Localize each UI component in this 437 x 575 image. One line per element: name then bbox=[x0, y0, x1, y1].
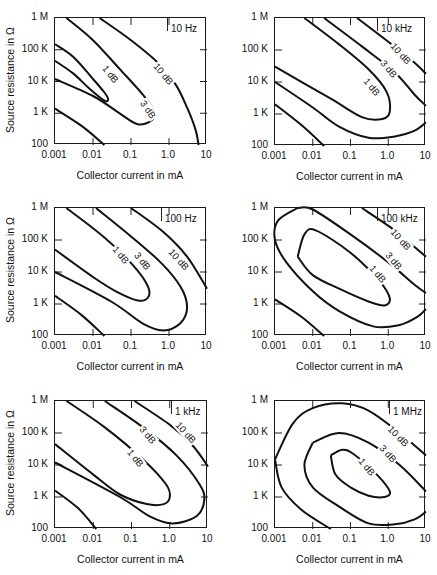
y-tick-label: 10 K bbox=[228, 266, 268, 276]
x-tick-label: 0.001 bbox=[256, 341, 292, 351]
plot-frame: 1 dB3 dB10 dB100 kHz bbox=[274, 207, 425, 335]
plot-curves bbox=[275, 401, 426, 529]
x-axis-label: Collector current in mA bbox=[30, 360, 230, 372]
x-tick-label: 0.001 bbox=[36, 341, 72, 351]
x-tick-label: 10 bbox=[407, 151, 437, 161]
plot-frame: 1 dB3 dB10 dB10 Hz bbox=[54, 17, 206, 144]
x-tick-label: 1.0 bbox=[369, 341, 405, 351]
contour-1-db bbox=[55, 44, 108, 101]
label-divider bbox=[167, 18, 168, 31]
x-tick-label: 1.0 bbox=[150, 150, 186, 160]
plot-curves bbox=[275, 18, 426, 146]
plot-frame: 1 dB3 dB10 dB10 kHz bbox=[274, 17, 425, 145]
x-tick-label: 1.0 bbox=[151, 534, 187, 544]
x-tick-label: 0.01 bbox=[294, 341, 330, 351]
x-tick-label: 0.1 bbox=[112, 341, 148, 351]
x-tick-label: 1.0 bbox=[369, 151, 405, 161]
plot-curves bbox=[275, 208, 426, 336]
x-tick-label: 1.0 bbox=[369, 534, 405, 544]
contour-3-db bbox=[274, 208, 426, 327]
contour-10-db bbox=[55, 109, 104, 145]
x-tick-label: 10 bbox=[407, 534, 437, 544]
plot-curves bbox=[55, 401, 208, 529]
label-divider bbox=[389, 401, 390, 414]
label-divider bbox=[377, 208, 378, 221]
x-axis-label: Collector current in mA bbox=[250, 360, 437, 372]
x-tick-label: 0.001 bbox=[256, 151, 292, 161]
x-tick-label: 1.0 bbox=[150, 341, 186, 351]
plot-frame: 1 dB3 dB10 dB1 kHz bbox=[54, 400, 207, 528]
x-tick-label: 0.1 bbox=[332, 151, 368, 161]
y-tick-label: 100 bbox=[8, 330, 48, 340]
y-axis-label: Source resistance in Ω bbox=[4, 410, 16, 516]
label-divider bbox=[171, 401, 172, 414]
contour-10-db bbox=[275, 459, 331, 529]
y-tick-label: 100 K bbox=[228, 427, 268, 437]
x-tick-label: 0.1 bbox=[332, 341, 368, 351]
x-axis-label: Collector current in mA bbox=[31, 553, 231, 565]
frequency-label: 100 kHz bbox=[381, 213, 418, 224]
contour-1-db bbox=[275, 18, 390, 120]
plot-frame: 1 dB3 dB10 dB100 Hz bbox=[54, 207, 206, 335]
contour-3-db bbox=[55, 208, 187, 330]
y-tick-label: 100 bbox=[228, 523, 268, 533]
x-tick-label: 0.001 bbox=[36, 150, 72, 160]
label-divider bbox=[377, 18, 378, 31]
x-tick-label: 10 bbox=[188, 341, 224, 351]
y-tick-label: 1 M bbox=[8, 202, 48, 212]
y-tick-label: 10 K bbox=[228, 459, 268, 469]
plot-frame: 1 dB3 dB10 dB1 MHz bbox=[274, 400, 425, 528]
x-tick-label: 0.01 bbox=[74, 341, 110, 351]
y-axis-label: Source resistance in Ω bbox=[4, 217, 16, 323]
frequency-label: 1 kHz bbox=[175, 406, 201, 417]
x-tick-label: 0.01 bbox=[74, 534, 110, 544]
x-axis-label: Collector current in mA bbox=[30, 169, 230, 181]
y-tick-label: 10 K bbox=[228, 76, 268, 86]
y-tick-label: 1 K bbox=[228, 108, 268, 118]
x-tick-label: 0.001 bbox=[256, 534, 292, 544]
y-tick-label: 100 K bbox=[228, 44, 268, 54]
x-tick-label: 0.001 bbox=[36, 534, 72, 544]
x-axis-label: Collector current in mA bbox=[250, 170, 437, 182]
x-axis-label: Collector current in mA bbox=[250, 553, 437, 565]
y-tick-label: 1 M bbox=[228, 12, 268, 22]
y-tick-label: 1 M bbox=[228, 202, 268, 212]
x-tick-label: 10 bbox=[188, 150, 224, 160]
y-tick-label: 100 K bbox=[228, 234, 268, 244]
x-tick-label: 10 bbox=[189, 534, 225, 544]
y-tick-label: 100 bbox=[8, 139, 48, 149]
frequency-label: 10 Hz bbox=[171, 23, 197, 34]
y-tick-label: 1 K bbox=[228, 491, 268, 501]
label-divider bbox=[161, 208, 162, 221]
y-tick-label: 1 M bbox=[228, 395, 268, 405]
y-axis-label: Source resistance in Ω bbox=[4, 27, 16, 133]
frequency-label: 10 kHz bbox=[381, 23, 412, 34]
y-tick-label: 100 bbox=[228, 330, 268, 340]
plot-curves bbox=[55, 18, 207, 145]
x-tick-label: 0.01 bbox=[294, 151, 330, 161]
y-tick-label: 1 K bbox=[228, 298, 268, 308]
contour-10-db bbox=[55, 296, 104, 336]
x-tick-label: 10 bbox=[407, 341, 437, 351]
x-tick-label: 0.1 bbox=[113, 534, 149, 544]
y-tick-label: 1 M bbox=[8, 12, 48, 22]
contour-10-db bbox=[275, 299, 324, 336]
contour-10-db bbox=[55, 491, 96, 530]
frequency-label: 100 Hz bbox=[165, 213, 197, 224]
x-tick-label: 0.1 bbox=[112, 150, 148, 160]
y-tick-label: 100 bbox=[228, 140, 268, 150]
frequency-label: 1 MHz bbox=[393, 406, 422, 417]
contour-1-db bbox=[55, 401, 170, 505]
x-tick-label: 0.01 bbox=[294, 534, 330, 544]
x-tick-label: 0.1 bbox=[332, 534, 368, 544]
y-tick-label: 100 bbox=[8, 523, 48, 533]
x-tick-label: 0.01 bbox=[74, 150, 110, 160]
contour-3-db bbox=[304, 443, 426, 526]
y-tick-label: 1 M bbox=[8, 395, 48, 405]
